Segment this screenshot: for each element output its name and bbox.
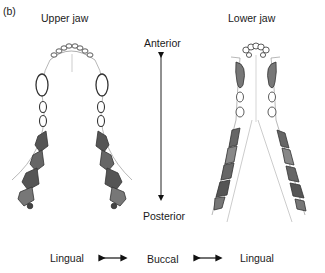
upper-jaw-drawing [12,44,132,209]
jaw-diagram [0,0,325,273]
lower-jaw-drawing [212,43,306,222]
